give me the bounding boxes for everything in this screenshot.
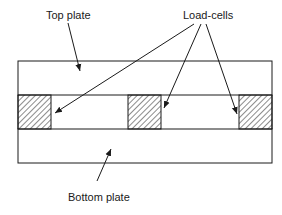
load-cell-right (239, 95, 272, 129)
load-cell-arrow-left (55, 24, 194, 113)
load-cells-label: Load-cells (183, 9, 234, 21)
top-plate (18, 61, 272, 95)
bottom-plate-arrow (97, 149, 111, 181)
top-plate-arrow (68, 23, 80, 71)
load-cell-arrow-right (206, 24, 237, 114)
load-cell-left (18, 95, 51, 129)
load-cell-middle (128, 95, 161, 129)
top-plate-label: Top plate (46, 9, 91, 21)
bottom-plate-label: Bottom plate (68, 191, 130, 203)
load-cell-diagram: Top plate Load-cells Bottom plate (0, 0, 282, 215)
bottom-plate (18, 129, 272, 163)
